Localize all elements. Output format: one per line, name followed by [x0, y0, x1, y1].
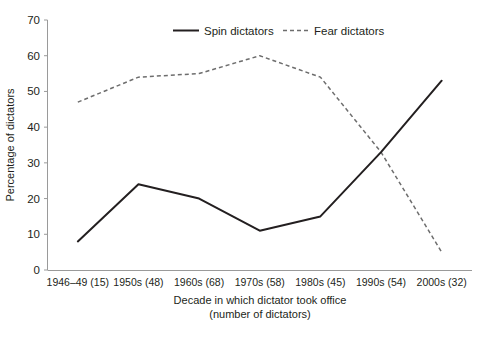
y-tick-0: 0 — [34, 264, 40, 276]
legend-label-spin: Spin dictators — [204, 25, 274, 37]
y-axis-tick-labels: 010203040506070 — [27, 14, 40, 276]
line-chart: 010203040506070 Percentage of dictators … — [0, 0, 485, 338]
x-tick-label-6: 2000s (32) — [417, 276, 467, 288]
legend: Spin dictators Fear dictators — [173, 25, 385, 37]
y-axis-tick-marks — [44, 20, 48, 270]
x-tick-label-4: 1980s (45) — [295, 276, 345, 288]
y-axis-title: Percentage of dictators — [4, 88, 16, 202]
y-tick-70: 70 — [27, 14, 40, 26]
x-tick-label-5: 1990s (54) — [356, 276, 406, 288]
y-tick-60: 60 — [27, 50, 40, 62]
chart-canvas: 010203040506070 Percentage of dictators … — [0, 0, 485, 338]
y-tick-20: 20 — [27, 193, 40, 205]
x-tick-label-2: 1960s (68) — [174, 276, 224, 288]
y-tick-30: 30 — [27, 157, 40, 169]
x-tick-label-3: 1970s (58) — [235, 276, 285, 288]
legend-label-fear: Fear dictators — [314, 25, 385, 37]
series-line-fear-dictators — [78, 56, 442, 252]
y-tick-50: 50 — [27, 85, 40, 97]
x-axis-tick-labels: 1946–49 (15)1950s (48)1960s (68)1970s (5… — [47, 276, 467, 288]
x-axis-title-line1: Decade in which dictator took office — [174, 294, 347, 306]
x-axis-title-line2: (number of dictators) — [209, 308, 310, 320]
y-tick-40: 40 — [27, 121, 40, 133]
x-tick-label-0: 1946–49 (15) — [47, 276, 109, 288]
x-tick-label-1: 1950s (48) — [113, 276, 163, 288]
series-line-spin-dictators — [78, 81, 442, 242]
y-tick-10: 10 — [27, 228, 40, 240]
